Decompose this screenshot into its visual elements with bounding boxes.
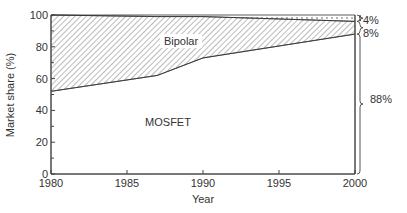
y-tick-label: 60 xyxy=(36,73,48,85)
x-tick-label: 1980 xyxy=(39,177,63,189)
chart-svg: 020406080100 19801985199019952000 Year M… xyxy=(0,0,407,213)
y-tick-label: 20 xyxy=(36,136,48,148)
y-axis-label: Market share (%) xyxy=(4,53,16,137)
x-tick-label: 1990 xyxy=(191,177,215,189)
y-tick-label: 40 xyxy=(36,104,48,116)
x-tick-label: 1995 xyxy=(267,177,291,189)
plot-area xyxy=(51,15,355,174)
mosfet-region-label: MOSFET xyxy=(145,116,191,128)
annotation-88pct: 88% xyxy=(370,93,392,105)
bipolar-region-label: Bipolar xyxy=(164,35,199,47)
x-tick-label: 1985 xyxy=(115,177,139,189)
y-tick-label: 100 xyxy=(30,9,48,21)
x-tick-label: 2000 xyxy=(343,177,367,189)
annotation-8pct: 8% xyxy=(363,27,379,39)
x-axis-label: Year xyxy=(192,193,215,205)
annotation-4pct: 4% xyxy=(363,14,379,26)
y-tick-label: 80 xyxy=(36,41,48,53)
